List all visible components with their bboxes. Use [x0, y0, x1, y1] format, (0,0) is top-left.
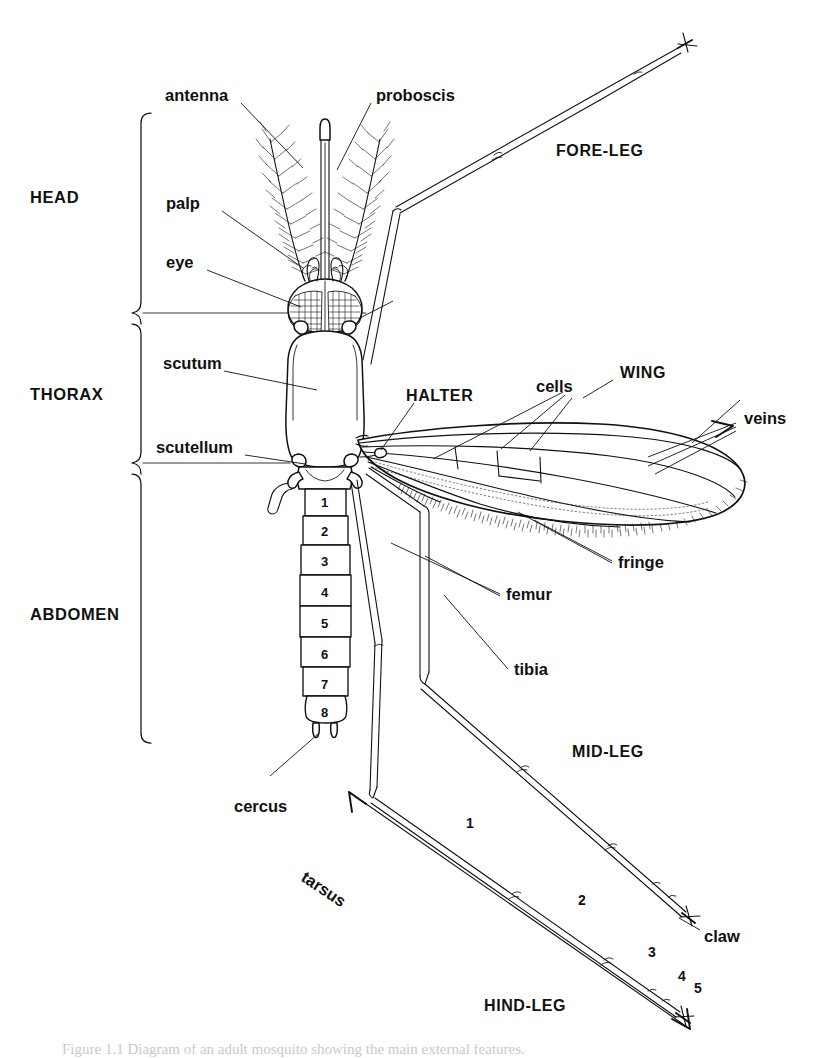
abdomen-segment-number: 6 — [321, 647, 328, 662]
region-label-abdomen: ABDOMEN — [30, 605, 119, 623]
tarsus-segment-number: 5 — [694, 980, 702, 996]
abdomen-segment-number: 3 — [321, 554, 328, 569]
region-brace-head — [132, 113, 151, 324]
label-tarsus: tarsus — [298, 868, 349, 911]
figure-page: HEAD THORAX ABDOMEN antenna proboscis pa… — [0, 0, 817, 1058]
thorax-scutum — [286, 321, 364, 467]
region-label-head: HEAD — [30, 188, 79, 206]
label-hind-leg: HIND-LEG — [484, 997, 566, 1014]
figure-caption-cropped: Figure 1.1 Diagram of an adult mosquito … — [0, 1044, 817, 1058]
mosquito-anatomy-diagram: HEAD THORAX ABDOMEN antenna proboscis pa… — [0, 0, 817, 1058]
abdomen-segment-number: 1 — [321, 495, 328, 510]
label-fore-leg: FORE-LEG — [556, 142, 643, 159]
abdomen-segment-number: 4 — [321, 585, 329, 600]
label-femur: femur — [506, 585, 552, 603]
label-cercus: cercus — [234, 797, 287, 815]
label-tibia: tibia — [514, 660, 549, 678]
fore-leg — [363, 33, 697, 364]
label-cells: cells — [536, 377, 573, 395]
tarsus-segment-number: 4 — [678, 968, 686, 984]
label-halter: HALTER — [406, 387, 473, 404]
tarsus-segment-number: 3 — [648, 944, 656, 960]
mid-leg — [366, 468, 700, 926]
label-mid-leg: MID-LEG — [572, 743, 644, 760]
cercus-right — [331, 723, 338, 738]
region-label-thorax: THORAX — [30, 385, 103, 403]
abdomen-segment-number: 5 — [321, 616, 328, 631]
tarsus-segment-number: 1 — [466, 815, 474, 831]
label-antenna: antenna — [165, 86, 229, 104]
region-brace-thorax — [132, 324, 141, 474]
label-proboscis: proboscis — [376, 86, 455, 104]
label-scutellum: scutellum — [156, 438, 233, 456]
abdomen-segment-number: 7 — [321, 677, 328, 692]
tarsus-arrow — [349, 792, 690, 1029]
tarsus-segment-number: 2 — [578, 892, 586, 908]
abdomen-segment-number: 2 — [321, 524, 328, 539]
figure-caption-text: Figure 1.1 Diagram of an adult mosquito … — [62, 1044, 525, 1058]
wing — [356, 423, 747, 537]
label-claw: claw — [704, 927, 740, 945]
region-brace-abdomen — [132, 474, 151, 743]
label-wing: WING — [620, 364, 666, 381]
label-scutum: scutum — [163, 354, 222, 372]
abdomen-segment-number: 8 — [321, 705, 328, 720]
label-veins: veins — [744, 409, 786, 427]
proboscis — [320, 119, 330, 287]
label-fringe: fringe — [618, 553, 664, 571]
label-eye: eye — [166, 253, 194, 271]
label-palp: palp — [166, 194, 200, 212]
